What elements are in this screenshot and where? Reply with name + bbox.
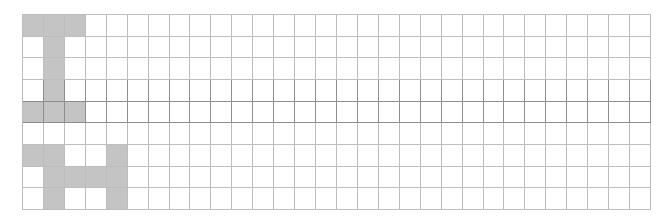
grid-cell-r8-c10[interactable]: [232, 188, 253, 210]
grid-cell-r8-c7[interactable]: [170, 188, 191, 210]
grid-cell-r8-c4[interactable]: [107, 188, 128, 210]
grid-cell-r4-c3[interactable]: [86, 102, 107, 124]
grid-cell-r4-c18[interactable]: [400, 102, 421, 124]
grid-cell-r6-c14[interactable]: [316, 145, 337, 167]
grid-cell-r0-c12[interactable]: [274, 15, 295, 37]
grid-cell-r2-c24[interactable]: [525, 58, 546, 80]
grid-cell-r5-c5[interactable]: [128, 123, 149, 145]
grid-cell-r4-c23[interactable]: [504, 102, 525, 124]
grid-cell-r5-c6[interactable]: [149, 123, 170, 145]
grid-cell-r4-c19[interactable]: [421, 102, 442, 124]
grid-cell-r4-c29[interactable]: [630, 102, 651, 124]
grid-cell-r7-c27[interactable]: [588, 167, 609, 189]
grid-cell-r0-c18[interactable]: [400, 15, 421, 37]
grid-cell-r2-c14[interactable]: [316, 58, 337, 80]
grid-cell-r2-c4[interactable]: [107, 58, 128, 80]
grid-cell-r0-c22[interactable]: [484, 15, 505, 37]
grid-cell-r5-c11[interactable]: [253, 123, 274, 145]
grid-cell-r4-c0[interactable]: [23, 102, 44, 124]
grid-cell-r2-c15[interactable]: [337, 58, 358, 80]
grid-cell-r2-c6[interactable]: [149, 58, 170, 80]
grid-cell-r5-c26[interactable]: [567, 123, 588, 145]
grid-cell-r5-c2[interactable]: [65, 123, 86, 145]
grid-cell-r7-c11[interactable]: [253, 167, 274, 189]
grid-cell-r5-c19[interactable]: [421, 123, 442, 145]
grid-cell-r7-c2[interactable]: [65, 167, 86, 189]
grid-cell-r4-c7[interactable]: [170, 102, 191, 124]
grid-cell-r6-c26[interactable]: [567, 145, 588, 167]
grid-cell-r7-c4[interactable]: [107, 167, 128, 189]
grid-cell-r1-c18[interactable]: [400, 37, 421, 59]
grid-cell-r7-c16[interactable]: [358, 167, 379, 189]
grid-cell-r0-c17[interactable]: [379, 15, 400, 37]
grid-cell-r7-c9[interactable]: [211, 167, 232, 189]
grid-cell-r4-c4[interactable]: [107, 102, 128, 124]
grid-cell-r6-c13[interactable]: [295, 145, 316, 167]
grid-cell-r0-c2[interactable]: [65, 15, 86, 37]
grid-cell-r6-c17[interactable]: [379, 145, 400, 167]
grid-cell-r7-c26[interactable]: [567, 167, 588, 189]
grid-cell-r1-c17[interactable]: [379, 37, 400, 59]
grid-cell-r4-c25[interactable]: [546, 102, 567, 124]
grid-cell-r7-c28[interactable]: [609, 167, 630, 189]
grid-cell-r6-c15[interactable]: [337, 145, 358, 167]
grid-cell-r3-c3[interactable]: [86, 80, 107, 102]
grid-cell-r6-c6[interactable]: [149, 145, 170, 167]
grid-cell-r8-c0[interactable]: [23, 188, 44, 210]
grid-cell-r1-c5[interactable]: [128, 37, 149, 59]
grid-cell-r4-c12[interactable]: [274, 102, 295, 124]
grid-cell-r0-c9[interactable]: [211, 15, 232, 37]
grid-cell-r4-c10[interactable]: [232, 102, 253, 124]
grid-cell-r2-c27[interactable]: [588, 58, 609, 80]
grid-cell-r3-c1[interactable]: [44, 80, 65, 102]
grid-cell-r0-c13[interactable]: [295, 15, 316, 37]
grid-cell-r2-c20[interactable]: [442, 58, 463, 80]
grid-cell-r5-c4[interactable]: [107, 123, 128, 145]
grid-cell-r7-c12[interactable]: [274, 167, 295, 189]
grid-cell-r4-c8[interactable]: [190, 102, 211, 124]
grid-cell-r0-c29[interactable]: [630, 15, 651, 37]
grid-cell-r7-c18[interactable]: [400, 167, 421, 189]
grid-cell-r3-c2[interactable]: [65, 80, 86, 102]
grid-cell-r5-c23[interactable]: [504, 123, 525, 145]
grid-cell-r6-c20[interactable]: [442, 145, 463, 167]
grid-cell-r4-c6[interactable]: [149, 102, 170, 124]
grid-cell-r1-c1[interactable]: [44, 37, 65, 59]
grid-cell-r2-c1[interactable]: [44, 58, 65, 80]
grid-cell-r4-c15[interactable]: [337, 102, 358, 124]
grid-cell-r6-c24[interactable]: [525, 145, 546, 167]
grid-cell-r7-c0[interactable]: [23, 167, 44, 189]
grid-cell-r0-c28[interactable]: [609, 15, 630, 37]
grid-cell-r1-c8[interactable]: [190, 37, 211, 59]
grid-cell-r8-c12[interactable]: [274, 188, 295, 210]
grid-cell-r0-c15[interactable]: [337, 15, 358, 37]
grid-cell-r0-c6[interactable]: [149, 15, 170, 37]
grid-cell-r7-c21[interactable]: [463, 167, 484, 189]
grid-cell-r0-c11[interactable]: [253, 15, 274, 37]
grid-cell-r5-c25[interactable]: [546, 123, 567, 145]
grid-cell-r4-c9[interactable]: [211, 102, 232, 124]
grid-cell-r3-c9[interactable]: [211, 80, 232, 102]
grid-cell-r0-c16[interactable]: [358, 15, 379, 37]
grid-cell-r8-c16[interactable]: [358, 188, 379, 210]
grid-cell-r4-c17[interactable]: [379, 102, 400, 124]
grid-cell-r4-c21[interactable]: [463, 102, 484, 124]
grid-cell-r0-c5[interactable]: [128, 15, 149, 37]
grid-cell-r7-c19[interactable]: [421, 167, 442, 189]
grid-cell-r1-c6[interactable]: [149, 37, 170, 59]
grid-cell-r2-c12[interactable]: [274, 58, 295, 80]
grid-cell-r8-c22[interactable]: [484, 188, 505, 210]
grid-cell-r3-c18[interactable]: [400, 80, 421, 102]
grid-cell-r3-c17[interactable]: [379, 80, 400, 102]
grid-cell-r1-c10[interactable]: [232, 37, 253, 59]
grid-cell-r2-c9[interactable]: [211, 58, 232, 80]
grid-cell-r1-c23[interactable]: [504, 37, 525, 59]
grid-cell-r6-c29[interactable]: [630, 145, 651, 167]
grid-cell-r0-c1[interactable]: [44, 15, 65, 37]
grid-cell-r8-c19[interactable]: [421, 188, 442, 210]
grid-cell-r8-c25[interactable]: [546, 188, 567, 210]
grid-cell-r2-c7[interactable]: [170, 58, 191, 80]
grid-cell-r6-c5[interactable]: [128, 145, 149, 167]
grid-cell-r5-c15[interactable]: [337, 123, 358, 145]
grid-cell-r8-c24[interactable]: [525, 188, 546, 210]
